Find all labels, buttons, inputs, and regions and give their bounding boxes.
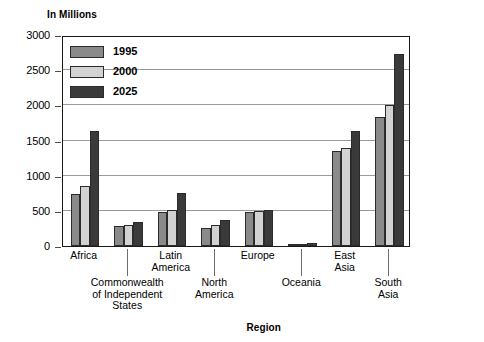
y-axis-tick-label: 1500: [10, 136, 50, 147]
y-axis-tick-mark: [55, 212, 61, 213]
legend-swatch-2025: [70, 86, 104, 98]
y-axis-tick-mark: [55, 71, 61, 72]
bar: [71, 194, 81, 246]
y-axis-tick-label: 2000: [10, 100, 50, 111]
legend-item: 2000: [70, 63, 137, 80]
bar: [80, 186, 90, 246]
bar: [351, 131, 361, 246]
bar: [167, 210, 177, 246]
legend-item: 2025: [70, 83, 137, 100]
legend-swatch-1995: [70, 46, 104, 58]
bar: [133, 222, 143, 246]
x-axis-category-label: South Asia: [342, 277, 434, 300]
legend-item: 1995: [70, 43, 137, 60]
bar: [158, 212, 168, 246]
x-axis-category-label: Latin America: [125, 250, 217, 273]
x-axis-category-label: Commonwealth of Independent States: [81, 277, 173, 312]
bar: [385, 105, 395, 246]
x-axis-category-label: Europe: [212, 250, 304, 262]
y-axis-tick-label: 1000: [10, 171, 50, 182]
bar: [90, 131, 100, 246]
bar: [307, 243, 317, 246]
y-axis-tick-mark: [55, 36, 61, 37]
bar: [264, 210, 274, 246]
y-axis-tick-mark: [55, 106, 61, 107]
bar: [245, 212, 255, 246]
bar: [254, 211, 264, 246]
legend-label-2025: 2025: [113, 86, 137, 97]
bar: [288, 244, 298, 246]
bar: [211, 225, 221, 246]
bar: [114, 226, 124, 246]
legend-swatch-2000: [70, 66, 104, 78]
category-leader-line: [214, 249, 215, 276]
legend: 1995 2000 2025: [70, 43, 137, 103]
category-leader-line: [127, 249, 128, 276]
bar: [375, 117, 385, 246]
y-axis-tick-mark: [55, 247, 61, 248]
x-axis-category-label: North America: [168, 277, 260, 300]
bar: [394, 54, 404, 246]
y-axis-tick-label: 3000: [10, 30, 50, 41]
x-axis-category-label: Oceania: [255, 277, 347, 289]
category-leader-line: [301, 249, 302, 276]
y-axis-tick-mark: [55, 177, 61, 178]
bar: [177, 193, 187, 246]
bar: [220, 220, 230, 246]
y-axis-tick-label: 500: [10, 206, 50, 217]
y-axis-tick-mark: [55, 142, 61, 143]
legend-label-2000: 2000: [113, 66, 137, 77]
bar: [201, 228, 211, 246]
x-axis-category-label: Africa: [38, 250, 130, 262]
y-axis-title: In Millions: [47, 9, 97, 20]
legend-label-1995: 1995: [113, 46, 137, 57]
bar: [341, 148, 351, 246]
y-axis-tick-label: 2500: [10, 65, 50, 76]
x-axis-title: Region: [246, 322, 281, 333]
bar: [298, 244, 308, 246]
bar: [332, 151, 342, 246]
category-leader-line: [388, 249, 389, 276]
x-axis-category-label: East Asia: [299, 250, 391, 273]
bar: [124, 225, 134, 246]
bar-chart: In Millions 050010001500200025003000 199…: [0, 0, 484, 342]
